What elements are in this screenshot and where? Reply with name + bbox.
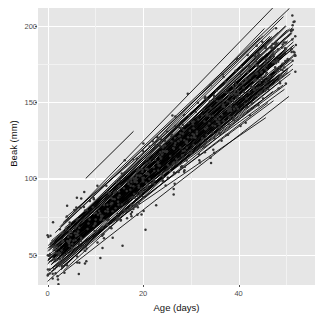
data-point	[265, 72, 268, 75]
data-point	[84, 209, 87, 212]
data-point	[286, 60, 289, 63]
data-point	[136, 194, 139, 197]
data-point	[172, 188, 175, 191]
data-point	[66, 264, 69, 267]
data-point	[94, 223, 97, 226]
data-point	[103, 219, 106, 222]
data-point	[46, 234, 49, 237]
data-point	[228, 122, 231, 125]
data-point	[130, 181, 133, 184]
data-point	[60, 249, 63, 252]
data-point	[256, 87, 259, 90]
data-point	[266, 69, 269, 72]
data-point	[221, 127, 224, 130]
data-point	[226, 88, 229, 91]
data-point	[95, 211, 98, 214]
data-point	[264, 47, 267, 50]
data-point	[277, 87, 280, 90]
data-point	[159, 156, 162, 159]
data-point	[59, 258, 62, 261]
data-point	[100, 215, 103, 218]
regression-line	[53, 48, 276, 251]
data-point	[123, 187, 126, 190]
data-point	[125, 210, 128, 213]
data-point	[180, 127, 183, 129]
x-axis-title: Age (days)	[38, 302, 315, 313]
data-point	[211, 124, 214, 127]
y-axis-title: Beak (mm)	[8, 69, 19, 219]
data-point	[110, 227, 113, 230]
data-point	[140, 187, 143, 190]
data-point	[66, 205, 69, 208]
data-point	[158, 142, 161, 145]
data-point	[78, 273, 81, 276]
data-point	[281, 46, 284, 49]
data-point	[218, 118, 221, 121]
data-point	[260, 71, 263, 74]
data-point	[116, 216, 119, 219]
data-point	[241, 82, 244, 85]
data-point	[174, 125, 177, 128]
data-point	[184, 166, 187, 169]
data-point	[66, 252, 69, 255]
data-point	[214, 125, 217, 128]
data-point	[188, 114, 191, 117]
data-point	[136, 181, 139, 184]
data-point	[78, 262, 81, 265]
data-point	[85, 242, 88, 245]
data-point	[92, 206, 95, 209]
regression-line	[59, 75, 275, 249]
data-point	[83, 191, 86, 194]
data-point	[237, 90, 240, 93]
data-point	[88, 218, 91, 221]
data-point	[228, 91, 231, 94]
data-point	[186, 140, 189, 143]
data-point	[174, 137, 177, 140]
data-point	[204, 143, 207, 146]
data-point	[291, 38, 294, 41]
data-point	[149, 160, 152, 163]
data-point	[82, 245, 85, 248]
data-point	[121, 244, 124, 247]
data-point	[252, 87, 255, 90]
data-point	[186, 147, 189, 150]
data-point	[196, 130, 199, 133]
data-point	[141, 195, 144, 198]
data-point	[294, 35, 297, 38]
data-point	[66, 215, 69, 218]
data-point	[140, 213, 143, 216]
data-point	[59, 228, 62, 231]
data-point	[279, 74, 282, 77]
data-point	[123, 209, 126, 212]
data-point	[70, 230, 73, 233]
data-point	[172, 193, 175, 196]
data-point	[187, 122, 190, 125]
data-point	[228, 117, 231, 120]
data-point	[82, 219, 85, 222]
data-point	[146, 184, 149, 187]
data-point	[216, 121, 219, 124]
data-point	[118, 194, 121, 197]
data-point	[78, 243, 81, 246]
x-tick-label: 40	[234, 289, 242, 298]
data-point	[144, 228, 147, 231]
data-point	[113, 198, 116, 201]
data-point	[281, 43, 284, 46]
data-point	[68, 221, 71, 224]
data-point	[225, 91, 228, 94]
data-point	[68, 245, 71, 248]
data-point	[235, 105, 238, 108]
x-tick-label: 0	[45, 289, 49, 298]
data-point	[167, 177, 170, 180]
data-point	[47, 273, 50, 276]
data-point	[202, 109, 205, 112]
data-point	[80, 197, 83, 200]
data-point	[71, 247, 74, 250]
data-point	[218, 123, 221, 126]
data-point	[283, 66, 286, 69]
data-point	[167, 164, 170, 167]
data-point	[171, 133, 174, 136]
data-point	[148, 178, 151, 181]
data-point	[121, 172, 124, 175]
data-point	[127, 180, 130, 183]
